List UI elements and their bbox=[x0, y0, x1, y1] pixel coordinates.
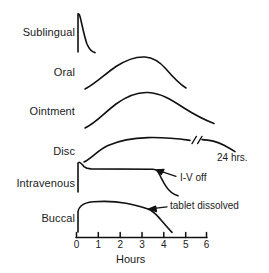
curve-buccal bbox=[78, 201, 172, 232]
x-tick-label-4: 4 bbox=[157, 239, 171, 250]
route-label-oral: Oral bbox=[54, 66, 75, 78]
curves-canvas bbox=[0, 0, 269, 273]
curve-ointment bbox=[85, 92, 214, 128]
x-axis bbox=[76, 232, 207, 237]
annotation-tablet-dissolved: tablet dissolved bbox=[170, 200, 239, 211]
x-tick-label-5: 5 bbox=[179, 239, 193, 250]
curve-intravenous bbox=[78, 162, 178, 195]
curve-oral bbox=[85, 57, 186, 89]
axis-break-mark bbox=[192, 136, 202, 143]
curve-disc-tail bbox=[202, 140, 235, 152]
curve-sublingual bbox=[78, 14, 95, 53]
route-label-disc: Disc bbox=[53, 145, 75, 157]
route-label-sublingual: Sublingual bbox=[23, 26, 75, 38]
x-tick-label-6: 6 bbox=[200, 239, 214, 250]
pharmacokinetics-figure: Sublingual Oral Ointment Disc Intravenou… bbox=[0, 0, 269, 273]
route-label-intravenous: Intravenous bbox=[16, 177, 75, 189]
route-label-buccal: Buccal bbox=[41, 212, 75, 224]
x-tick-label-2: 2 bbox=[113, 239, 127, 250]
x-tick-label-1: 1 bbox=[91, 239, 105, 250]
tablet-dissolved-arrowhead bbox=[148, 206, 156, 211]
x-tick-label-0: 0 bbox=[70, 239, 84, 250]
route-label-ointment: Ointment bbox=[30, 105, 75, 117]
x-axis-title: Hours bbox=[116, 253, 145, 265]
annotation-iv-off: I-V off bbox=[180, 172, 207, 183]
curve-disc-main bbox=[84, 138, 190, 162]
annotation-24-hours: 24 hrs. bbox=[217, 152, 248, 163]
x-tick-label-3: 3 bbox=[135, 239, 149, 250]
